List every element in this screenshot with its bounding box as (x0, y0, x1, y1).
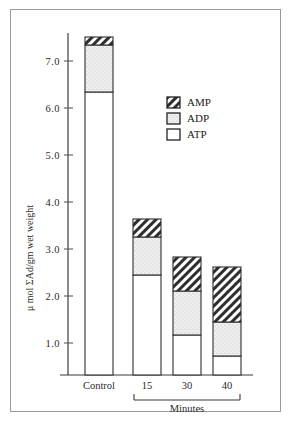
y-axis-title: μ mol ΣAd/gm wet weight (24, 205, 35, 311)
bar-segment-amp-30[interactable] (173, 257, 201, 291)
y-tick-label-4: 4.0 (45, 197, 60, 208)
legend-label-atp: ATP (187, 128, 207, 140)
bar-group-control[interactable] (85, 37, 113, 375)
bar-segment-adp-control[interactable] (85, 45, 113, 92)
bar-chart: 7.0 6.0 5.0 4.0 3.0 2.0 1.0 μ mol ΣAd/gm… (0, 0, 292, 423)
bar-segment-atp-30[interactable] (173, 335, 201, 375)
legend-swatch-adp (167, 113, 180, 124)
bar-segment-adp-30[interactable] (173, 291, 201, 335)
x-axis-category-labels: Control 15 30 40 (83, 380, 232, 391)
bar-segment-atp-15[interactable] (133, 275, 161, 375)
bar-segment-amp-control[interactable] (85, 37, 113, 45)
minutes-bracket (134, 394, 240, 400)
y-axis-tick-labels: 7.0 6.0 5.0 4.0 3.0 2.0 1.0 (45, 56, 60, 349)
legend-swatch-atp (167, 129, 180, 140)
y-tick-label-1: 1.0 (45, 338, 60, 349)
x-label-15: 15 (142, 380, 153, 391)
y-tick-label-2: 2.0 (45, 291, 60, 302)
bar-segment-amp-40[interactable] (213, 267, 241, 322)
figure-container: 7.0 6.0 5.0 4.0 3.0 2.0 1.0 μ mol ΣAd/gm… (0, 0, 292, 423)
legend-label-amp: AMP (187, 96, 211, 108)
bar-segment-adp-15[interactable] (133, 237, 161, 275)
x-label-40: 40 (222, 380, 233, 391)
bar-group-30[interactable] (173, 257, 201, 375)
x-label-30: 30 (182, 380, 193, 391)
y-tick-label-5: 5.0 (45, 150, 60, 161)
y-tick-label-6: 6.0 (45, 103, 60, 114)
chart-legend: AMP ADP ATP (167, 96, 211, 140)
y-tick-label-7: 7.0 (45, 56, 60, 67)
bar-segment-atp-40[interactable] (213, 356, 241, 375)
y-tick-label-3: 3.0 (45, 244, 60, 255)
bar-segment-adp-40[interactable] (213, 322, 241, 356)
bar-segment-atp-control[interactable] (85, 92, 113, 375)
x-label-control: Control (83, 380, 115, 391)
bar-group-40[interactable] (213, 267, 241, 375)
legend-label-adp: ADP (187, 112, 209, 124)
bar-segment-amp-15[interactable] (133, 219, 161, 237)
bar-group-15[interactable] (133, 219, 161, 375)
legend-swatch-amp (167, 97, 180, 108)
x-axis-group-title: Minutes (170, 403, 204, 414)
